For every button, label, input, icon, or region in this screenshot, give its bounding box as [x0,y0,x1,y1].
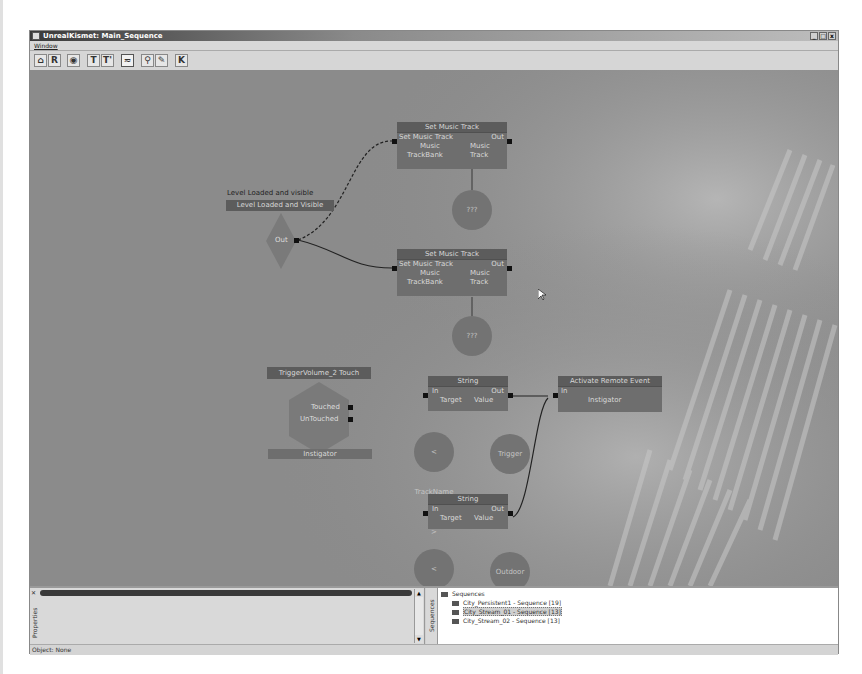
tree-label: Sequences [452,590,485,597]
maximize-button[interactable]: □ [819,32,827,40]
string-node-1[interactable]: String InOut TargetValue [428,376,508,411]
curve-icon[interactable]: ≂ [121,54,134,67]
app-icon [32,32,40,40]
string2-out-connector[interactable] [508,511,513,516]
event-level-loaded[interactable]: Level Loaded and Visible [226,200,334,211]
node-header: String [428,376,508,387]
variable-trackname-1[interactable]: < TrackName > [414,432,454,472]
string-node-2[interactable]: String InOut TargetValue [428,494,508,529]
tree-item-city-stream-01[interactable]: City_Stream_01 - Sequence [13] [452,608,562,616]
status-text: Object: None [32,646,71,653]
pin-icon[interactable]: ✕ [31,589,36,596]
var-label: Track [470,151,488,160]
variable-outdoor[interactable]: Outdoor [490,552,530,586]
tree-label: City_Persistent1 - Sequence [19] [463,599,561,606]
node-header: Activate Remote Event [558,376,662,387]
tree-item-city-persistent1[interactable]: City_Persistent1 - Sequence [19] [452,599,561,607]
event-caption: Level Loaded and visible [227,189,313,197]
remote-in-connector[interactable] [553,393,558,398]
music1-out-connector[interactable] [507,139,512,144]
properties-scrollbar[interactable]: ▲ ▼ [414,589,423,643]
var-label: Track [470,278,488,287]
value-label: Value [474,514,493,523]
var-label: TrackBank [407,151,443,160]
var-label: Music [420,269,440,278]
music2-in-connector[interactable] [392,266,397,271]
event-out-label: Out [275,236,288,244]
input-label: In [561,387,568,396]
properties-tab-label: Properties [31,608,38,638]
variable-trigger[interactable]: Trigger [490,434,530,474]
variable-circle-music1[interactable]: ??? [452,190,492,230]
properties-tab[interactable]: Properties [30,598,39,642]
properties-header-bar [40,590,412,596]
var-label: Music [470,269,490,278]
input-label: Set Music Track [399,260,453,269]
set-music-track-node-2[interactable]: Set Music Track Set Music TrackOut Music… [397,249,507,296]
scroll-down-arrow-icon[interactable]: ▼ [415,635,423,643]
zoom-icon[interactable]: ⚲ [141,54,154,67]
music1-in-connector[interactable] [392,139,397,144]
tree-item-city-stream-02[interactable]: City_Stream_02 - Sequence [13] [452,617,560,625]
target-label: Target [440,514,462,523]
string2-in-connector[interactable] [423,511,428,516]
var-label: Music [470,142,490,151]
close-button[interactable]: x [828,32,836,40]
search-object-icon[interactable]: R [48,54,61,67]
k-icon[interactable]: K [175,54,188,67]
instigator-bar[interactable]: Instigator [268,449,372,459]
output-label: Out [491,260,504,269]
title-bar: UnrealKismet: Main_Sequence _ □ x [30,31,838,41]
sequences-tab-label: Sequences [428,599,435,632]
sequence-icon [452,619,459,624]
var-label: Music [420,142,440,151]
kismet-graph-canvas[interactable]: Level Loaded and visible Level Loaded an… [30,70,838,586]
touched-connector[interactable] [348,405,353,410]
input-label: In [432,505,439,514]
window-title: UnrealKismet: Main_Sequence [43,31,163,41]
minimize-button[interactable]: _ [810,32,818,40]
string1-out-connector[interactable] [508,393,513,398]
home-icon[interactable]: ⌂ [34,54,47,67]
untouched-connector[interactable] [348,417,353,422]
output-label: Out [491,133,504,142]
tree-label: City_Stream_02 - Sequence [13] [463,617,560,624]
variable-circle-music2[interactable]: ??? [452,316,492,356]
tree-label: City_Stream_01 - Sequence [13] [463,607,562,616]
output-label: Out [491,387,504,396]
target-label: Target [440,396,462,405]
text-icon[interactable]: T [87,54,100,67]
node-header: String [428,494,508,505]
node-header: Set Music Track [397,249,507,260]
trigger-touch-event[interactable]: TriggerVolume_2 Touch [267,367,371,379]
sequence-icon [452,610,459,615]
menu-window[interactable]: Window [34,42,58,49]
node-header: Set Music Track [397,122,507,133]
wire-loaded-to-music2 [298,240,392,268]
desktop-edge [0,0,3,674]
output-label: Out [491,505,504,514]
eye-icon[interactable]: ◉ [67,54,80,67]
text-parent-icon[interactable]: T' [101,54,114,67]
variable-trackname-2[interactable]: < TrackName > [414,549,454,586]
value-label: Value [474,396,493,405]
untouched-label: UnTouched [300,415,338,423]
set-music-track-node-1[interactable]: Set Music Track Set Music TrackOut Music… [397,122,507,169]
scroll-up-arrow-icon[interactable]: ▲ [415,589,423,597]
sequences-tab[interactable]: Sequences [426,588,438,644]
event-out-connector[interactable] [294,238,299,243]
node-header: TriggerVolume_2 Touch [267,367,371,379]
instigator-label: Instigator [588,396,621,405]
sequences-root[interactable]: Sequences [441,590,485,598]
menu-bar: Window [30,41,838,51]
sequences-panel: Sequences Sequences City_Persistent1 - S… [426,588,838,644]
folder-icon [441,592,448,597]
sequence-icon [452,601,459,606]
status-bar: Object: None [30,644,838,655]
string1-in-connector[interactable] [423,393,428,398]
activate-remote-event-node[interactable]: Activate Remote Event In Instigator [558,376,662,412]
toolbar: ⌂ R ◉ T T' ≂ ⚲ ✎ K [30,51,838,70]
input-label: Set Music Track [399,133,453,142]
music2-out-connector[interactable] [507,266,512,271]
wrench-icon[interactable]: ✎ [155,54,168,67]
